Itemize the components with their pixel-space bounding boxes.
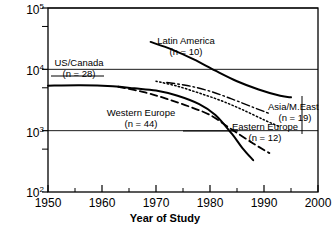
data-lines bbox=[48, 42, 291, 160]
axes bbox=[42, 8, 318, 192]
series-line bbox=[118, 87, 269, 153]
